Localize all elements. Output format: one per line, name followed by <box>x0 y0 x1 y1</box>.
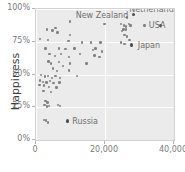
data-point <box>66 119 69 122</box>
data-point <box>76 75 78 77</box>
data-point <box>94 47 96 49</box>
y-axis-tick-label: 100% <box>7 4 30 12</box>
data-point <box>123 43 125 45</box>
x-axis-tick-mark <box>104 141 105 144</box>
data-point <box>55 86 57 88</box>
data-point <box>59 77 61 79</box>
data-point <box>69 34 71 36</box>
data-point <box>68 56 70 58</box>
gridline-vertical <box>174 9 175 140</box>
x-axis-tick-label: 0 <box>32 146 37 154</box>
data-point <box>93 54 95 56</box>
data-point <box>52 82 54 84</box>
data-point <box>48 53 50 55</box>
data-point <box>51 77 53 79</box>
data-point <box>58 81 60 83</box>
data-point <box>56 31 58 33</box>
data-point <box>42 90 44 92</box>
data-point <box>98 56 100 58</box>
data-point <box>46 101 48 103</box>
data-point <box>44 47 46 49</box>
data-point <box>69 20 71 22</box>
x-axis-tick-label: 40,000 <box>159 146 185 154</box>
data-point <box>50 91 52 93</box>
data-point <box>54 27 56 29</box>
data-point <box>143 24 145 26</box>
data-point <box>47 121 49 123</box>
data-point <box>132 13 135 16</box>
data-point <box>85 62 87 64</box>
data-point <box>56 70 58 72</box>
data-point <box>43 84 45 86</box>
data-point <box>58 61 60 63</box>
data-point <box>125 28 127 30</box>
data-point <box>39 38 41 40</box>
point-annotation-usa: USA <box>149 21 166 30</box>
x-axis-tick-label: 20,000 <box>90 146 118 154</box>
data-point <box>44 75 46 77</box>
data-point <box>42 81 44 83</box>
data-point <box>52 67 54 69</box>
point-annotation-new-zealand: New Zealand <box>76 10 129 19</box>
data-point <box>50 62 52 64</box>
data-point <box>126 35 128 37</box>
y-axis-tick-label: 0% <box>17 135 30 143</box>
data-point <box>38 84 40 86</box>
data-point <box>54 75 56 77</box>
data-point <box>45 81 47 83</box>
data-point <box>51 29 53 31</box>
y-axis-tick-label: 25% <box>12 102 30 110</box>
data-point <box>81 41 83 43</box>
gridline-vertical <box>105 9 106 140</box>
data-point <box>68 69 70 71</box>
data-point <box>129 24 131 26</box>
data-point <box>60 53 62 55</box>
data-point <box>69 62 71 64</box>
data-point <box>48 86 50 88</box>
x-axis-tick-mark <box>173 141 174 144</box>
data-point <box>90 41 92 43</box>
plot-area: New ZealandNetherlandsUSAJapanRussia <box>35 8 175 141</box>
data-point <box>58 47 60 49</box>
point-annotation-netherlands: Netherlands <box>129 8 175 14</box>
data-point <box>73 47 75 49</box>
data-point <box>64 48 66 50</box>
y-axis-label: Happiness <box>9 39 22 125</box>
gridline-horizontal <box>36 140 174 141</box>
data-point <box>49 80 51 82</box>
data-point <box>79 53 81 55</box>
y-axis-tick-label: 50% <box>12 70 30 78</box>
data-point <box>130 43 133 46</box>
data-point <box>99 41 101 43</box>
data-point <box>48 105 50 107</box>
data-point <box>67 40 69 42</box>
y-axis-tick-label: 75% <box>12 37 30 45</box>
scatter-chart: Happiness 0%25%50%75%100% 020,00040,000 … <box>0 0 185 172</box>
data-point <box>46 28 48 30</box>
x-axis-tick-mark <box>35 141 36 144</box>
data-point <box>128 39 130 41</box>
data-point <box>120 41 122 43</box>
data-point <box>39 79 41 81</box>
gridline-vertical <box>36 9 37 140</box>
point-annotation-japan: Japan <box>138 41 160 50</box>
data-point <box>47 75 49 77</box>
data-point <box>47 39 49 41</box>
data-point <box>101 50 103 52</box>
point-annotation-russia: Russia <box>72 117 98 126</box>
data-point <box>62 65 64 67</box>
data-point <box>54 55 56 57</box>
